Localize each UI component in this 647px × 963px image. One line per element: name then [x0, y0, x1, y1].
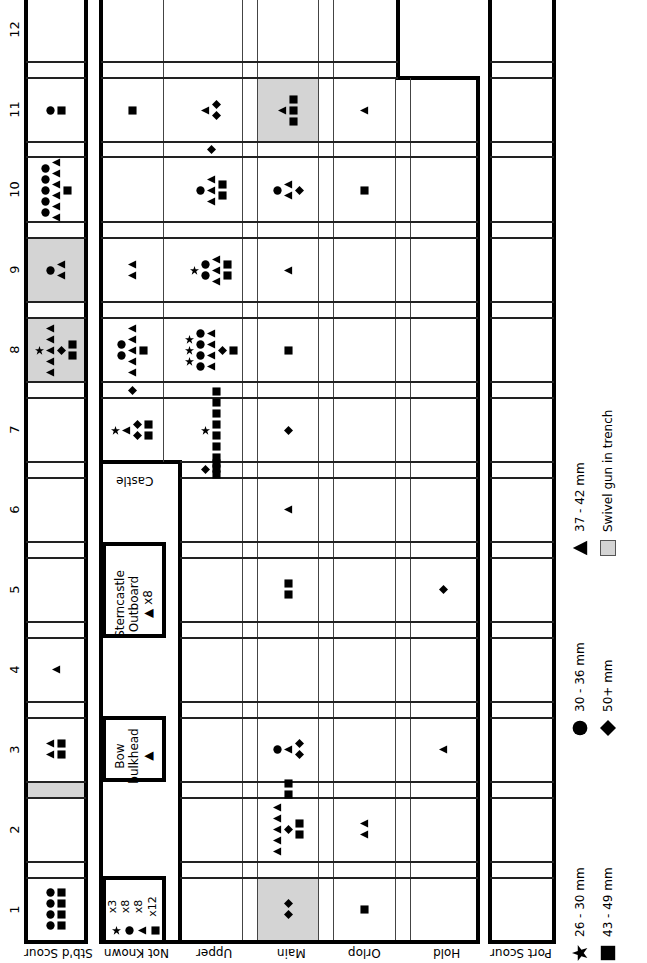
- not-known-counts: x3 x8 x8 x12: [112, 886, 160, 936]
- square-icon: [212, 387, 221, 396]
- square-icon: [284, 790, 293, 799]
- triangle-icon: [284, 505, 293, 514]
- row-divider: [180, 637, 478, 639]
- column-number-11: 11: [7, 100, 22, 120]
- legend-item-star: 26 - 30 mm: [572, 867, 588, 961]
- row-divider: [490, 717, 554, 719]
- row-divider: [26, 141, 86, 143]
- swivel-cell: [28, 781, 84, 797]
- row-divider: [101, 397, 478, 399]
- circle-icon: [41, 164, 50, 173]
- lane-label-port-scour: Port Scour: [490, 946, 552, 960]
- star-icon: [35, 346, 44, 355]
- row-divider: [490, 301, 554, 303]
- row-divider: [180, 621, 478, 623]
- square-icon: [68, 340, 77, 349]
- circle-icon: [201, 271, 210, 280]
- square-count: x12: [146, 896, 159, 917]
- diamond-icon: [439, 585, 448, 594]
- lane-label-upper: Upper: [196, 946, 232, 960]
- triangle-icon: [128, 346, 137, 355]
- lane-divider: [395, 78, 396, 940]
- star-icon: [572, 945, 588, 961]
- row-divider: [101, 156, 478, 158]
- row-divider: [180, 477, 478, 479]
- square-icon: [360, 186, 369, 195]
- star-count: x3: [106, 900, 119, 914]
- row-divider: [490, 77, 554, 79]
- triangle-icon: [207, 340, 216, 349]
- triangle-icon: [273, 814, 282, 823]
- swivel-cell: [258, 78, 318, 142]
- row-divider: [26, 477, 86, 479]
- legend-label: 37 - 42 mm: [573, 462, 587, 532]
- circle-icon: [273, 186, 282, 195]
- square-icon: [295, 830, 304, 839]
- triangle-icon: [212, 255, 221, 264]
- circle-icon: [46, 899, 55, 908]
- row-divider: [180, 541, 478, 543]
- row-divider: [101, 381, 478, 383]
- row-divider: [26, 237, 86, 239]
- row-divider: [26, 861, 86, 863]
- circle-icon: [46, 266, 55, 275]
- circle-count: x8: [119, 900, 132, 914]
- triangle-icon: [207, 362, 216, 371]
- square-icon: [284, 779, 293, 788]
- circle-icon: [41, 208, 50, 217]
- row-divider: [26, 877, 86, 879]
- square-icon: [151, 926, 160, 935]
- grid-edge: [396, 76, 480, 80]
- row-divider: [490, 237, 554, 239]
- circle-icon: [201, 260, 210, 269]
- square-icon: [229, 346, 238, 355]
- triangle-icon: [52, 665, 61, 674]
- circle-icon: [46, 106, 55, 115]
- column-number-1: 1: [7, 900, 22, 920]
- row-divider: [490, 877, 554, 879]
- lane-divider: [163, 0, 164, 462]
- diamond-icon: [284, 825, 293, 834]
- row-divider: [26, 797, 86, 799]
- diamond-icon: [218, 346, 227, 355]
- star-icon: [190, 266, 199, 275]
- bow-bulkhead-label: Bow bulkhead ▲: [113, 706, 155, 806]
- star-icon: [185, 357, 194, 366]
- square-icon: [218, 191, 227, 200]
- square-icon: [212, 459, 221, 468]
- legend-label: Swivel gun in trench: [601, 410, 615, 532]
- square-icon: [218, 180, 227, 189]
- column-number-8: 8: [7, 340, 22, 360]
- lane-label-not-known: Not Known: [104, 946, 169, 960]
- column-number-9: 9: [7, 260, 22, 280]
- diamond-icon: [57, 346, 66, 355]
- diamond-icon: [128, 386, 137, 395]
- column-number-6: 6: [7, 500, 22, 520]
- row-divider: [101, 141, 478, 143]
- star-icon: [112, 926, 121, 935]
- triangle-icon: [207, 197, 216, 206]
- column-number-10: 10: [7, 180, 22, 200]
- triangle-icon: [273, 825, 282, 834]
- triangle-icon: [572, 540, 588, 556]
- legend-item-circle: 30 - 36 mm: [572, 642, 588, 736]
- row-divider: [101, 317, 478, 319]
- triangle-icon: [439, 745, 448, 754]
- box-text: Bow: [113, 706, 127, 806]
- square-icon: [212, 470, 221, 479]
- row-divider: [490, 141, 554, 143]
- triangle-icon: [207, 351, 216, 360]
- row-divider: [26, 557, 86, 559]
- row-divider: [490, 781, 554, 783]
- row-divider: [490, 557, 554, 559]
- circle-icon: [125, 926, 134, 935]
- triangle-icon: [46, 357, 55, 366]
- diamond-icon: [284, 899, 293, 908]
- triangle-icon: [284, 180, 293, 189]
- square-icon: [600, 945, 616, 961]
- legend-item-square: 43 - 49 mm: [600, 867, 616, 961]
- square-icon: [68, 351, 77, 360]
- triangle-icon: [57, 271, 66, 280]
- triangle-icon: [360, 106, 369, 115]
- triangle-icon: [138, 926, 147, 935]
